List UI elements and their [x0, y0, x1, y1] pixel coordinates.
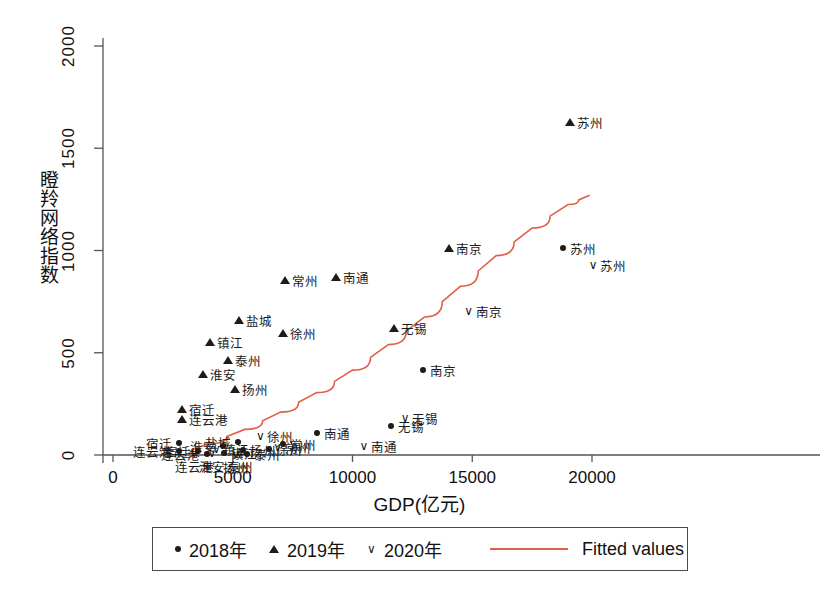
data-point-2019年-南通 — [331, 273, 341, 281]
dot-marker-icon — [175, 546, 181, 552]
data-point-label: 徐州 — [290, 324, 316, 343]
data-point-label: 南京 — [456, 239, 482, 258]
y-tick-label-1: 500 — [59, 337, 79, 368]
y-tick-label-3: 1500 — [59, 127, 79, 169]
data-point-label: 泰州 — [227, 457, 253, 476]
data-point-label: 南通 — [371, 436, 397, 455]
data-point-2019年-扬州 — [230, 385, 240, 393]
line-marker-icon — [490, 548, 568, 550]
check-marker-icon: ∨ — [367, 545, 376, 553]
data-point-label: 镇江 — [217, 332, 243, 351]
data-point-label: 无锡 — [412, 409, 438, 428]
y-tick-label-2: 1000 — [59, 230, 79, 272]
data-point-label: 连云港 — [189, 410, 228, 429]
data-point-2019年-连云港 — [177, 415, 187, 423]
data-point-2018年-苏州 — [560, 245, 566, 251]
legend-label-2018: 2018年 — [189, 536, 247, 562]
data-point-label: 苏州 — [600, 255, 626, 274]
data-point-2020年-徐州: ∨ — [256, 432, 265, 440]
data-point-2019年-常州 — [280, 276, 290, 284]
data-point-2020年-泰州: ∨ — [235, 449, 244, 457]
legend-item-2019[interactable]: 2019年 — [269, 536, 345, 562]
data-point-2019年-宿迁 — [177, 405, 187, 413]
y-tick-label-4: 2000 — [59, 25, 79, 67]
data-point-2020年-南京: ∨ — [464, 307, 473, 315]
data-point-2018年-南通 — [314, 430, 320, 436]
x-tick-label-2: 10000 — [329, 468, 376, 488]
data-point-label: 扬州 — [242, 379, 268, 398]
data-point-label: 苏州 — [577, 112, 603, 131]
plot-overlay: 050001000015000200000500100015002000宿迁宿迁… — [0, 0, 839, 520]
data-point-2019年-徐州 — [278, 329, 288, 337]
chart-legend: 2018年 2019年 ∨ 2020年 Fitted values — [152, 527, 688, 571]
legend-label-2020: 2020年 — [384, 536, 442, 562]
data-point-2020年-镇江: ∨ — [212, 445, 221, 453]
legend-label-2019: 2019年 — [287, 536, 345, 562]
data-point-label: 南京 — [476, 301, 502, 320]
data-point-label: 盐城 — [246, 311, 272, 330]
x-tick-label-0: 0 — [108, 468, 117, 488]
data-point-2019年-无锡 — [389, 324, 399, 332]
data-point-label: 淮安 — [199, 457, 225, 476]
data-point-label: 苏州 — [570, 239, 596, 258]
data-point-2020年-连云港: ∨ — [190, 449, 199, 457]
legend-item-fitted[interactable]: Fitted values — [490, 539, 684, 560]
data-point-label: 常州 — [292, 271, 318, 290]
data-point-2020年-南通: ∨ — [360, 442, 369, 450]
x-tick-label-3: 15000 — [449, 468, 496, 488]
triangle-marker-icon — [269, 545, 279, 553]
data-point-label: 泰州 — [235, 350, 261, 369]
data-point-label: 南京 — [430, 361, 456, 380]
data-point-label: 徐州 — [267, 426, 293, 445]
data-point-2018年-南京 — [420, 367, 426, 373]
y-tick-label-0: 0 — [59, 450, 79, 460]
data-point-2018年-无锡 — [388, 423, 394, 429]
data-point-2019年-泰州 — [223, 356, 233, 364]
data-point-2020年-无锡: ∨ — [401, 414, 410, 422]
legend-item-2018[interactable]: 2018年 — [175, 536, 247, 562]
data-point-2019年-淮安 — [198, 370, 208, 378]
x-tick-label-4: 20000 — [568, 468, 615, 488]
legend-label-fitted: Fitted values — [582, 539, 684, 560]
data-point-label: 淮安 — [210, 365, 236, 384]
data-point-label: 无锡 — [401, 319, 427, 338]
data-point-2019年-南京 — [444, 244, 454, 252]
data-point-2019年-镇江 — [205, 338, 215, 346]
data-point-2019年-盐城 — [234, 316, 244, 324]
data-point-2019年-苏州 — [565, 118, 575, 126]
legend-item-2020[interactable]: ∨ 2020年 — [367, 536, 442, 562]
data-point-label: 南通 — [343, 268, 369, 287]
chart-root: 瞪羚网络指数 GDP(亿元) 0500010000150002000005001… — [0, 0, 839, 609]
data-point-2018年-徐州 — [266, 446, 272, 452]
data-point-label: 南通 — [324, 423, 350, 442]
data-point-2020年-苏州: ∨ — [589, 261, 598, 269]
